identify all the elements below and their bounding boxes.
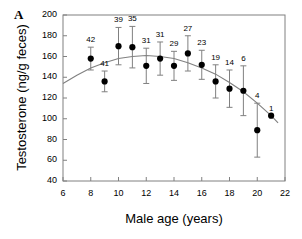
sample-size-label: 23 [191,39,213,47]
data-point [102,78,108,84]
data-point [171,63,177,69]
sample-size-label: 31 [149,31,171,39]
sample-size-label: 6 [232,55,254,63]
data-point [268,113,274,119]
sample-size-label: 41 [94,60,116,68]
data-point [254,127,260,133]
sample-size-label: 4 [246,92,268,100]
data-point [115,43,121,49]
sample-size-label: 27 [177,25,199,33]
sample-size-label: 29 [163,40,185,48]
x-axis-ticks [63,177,285,181]
figure-panel-a: A Testosterone (ng/g feces) Male age (ye… [0,0,302,239]
y-axis-ticks [63,15,67,181]
data-point [157,55,163,61]
sample-size-label: 42 [80,36,102,44]
sample-size-label: 1 [260,105,282,113]
data-point [213,78,219,84]
data-point [226,86,232,92]
data-point [185,50,191,56]
data-point [143,63,149,69]
data-point [199,62,205,68]
sample-size-label: 35 [121,15,143,23]
